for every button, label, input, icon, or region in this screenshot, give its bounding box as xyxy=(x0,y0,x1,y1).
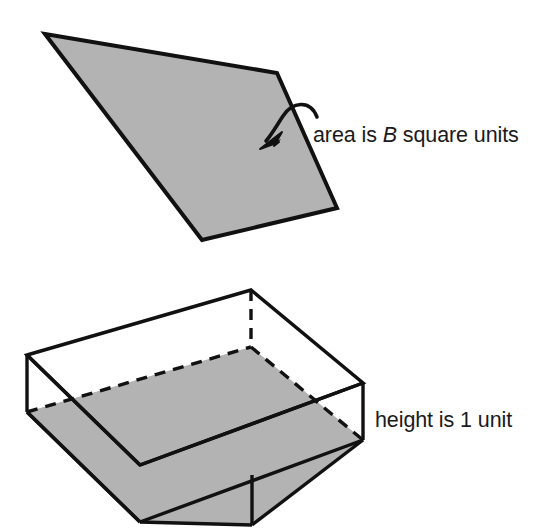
slab-silhouette xyxy=(27,347,363,525)
prism-group xyxy=(27,290,363,525)
top-region-group xyxy=(45,34,337,240)
height-label: height is 1 unit xyxy=(375,408,512,432)
area-label-part1: area is xyxy=(313,123,383,147)
figure-container: area is B square units xyxy=(0,0,554,529)
height-label-group: height is 1 unit xyxy=(375,408,512,432)
shaded-quadrilateral-region xyxy=(45,34,337,240)
geometry-figure: area is B square units xyxy=(0,0,554,529)
area-label: area is B square units xyxy=(313,123,519,147)
area-label-part2: square units xyxy=(397,123,519,147)
area-label-group: area is B square units xyxy=(313,123,519,147)
area-label-variable: B xyxy=(383,123,397,147)
